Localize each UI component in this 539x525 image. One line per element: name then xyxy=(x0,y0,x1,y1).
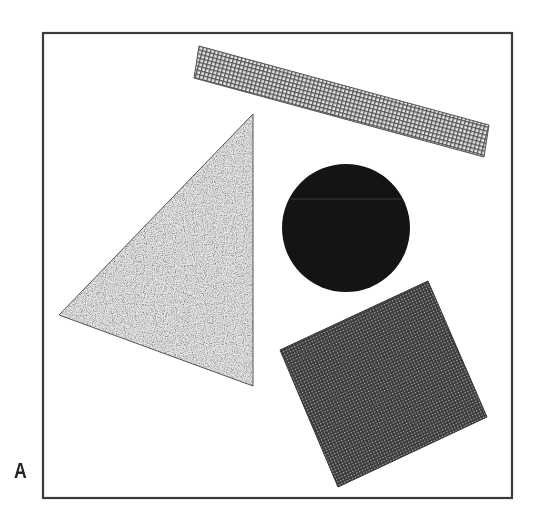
figure-canvas xyxy=(0,0,539,525)
panel-label: A xyxy=(14,458,27,484)
square-shape xyxy=(280,281,487,487)
circle-shape xyxy=(282,164,410,292)
triangle-shape xyxy=(59,114,253,386)
